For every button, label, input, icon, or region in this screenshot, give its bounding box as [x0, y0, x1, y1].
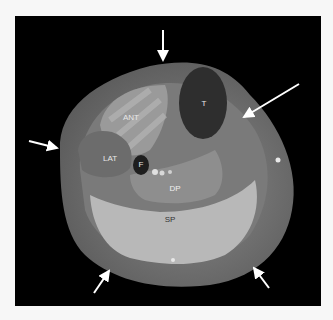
arrow-bottom-right: [254, 268, 269, 288]
label-fibula: F: [139, 161, 144, 169]
label-sp: SP: [165, 216, 176, 224]
label-tibia: T: [202, 100, 207, 108]
label-ant: ANT: [123, 114, 139, 122]
label-dp: DP: [169, 185, 180, 193]
arrow-left: [29, 141, 57, 148]
arrow-bottom-left: [94, 271, 109, 293]
label-lat: LAT: [103, 155, 117, 163]
mri-cross-section: [0, 0, 333, 320]
